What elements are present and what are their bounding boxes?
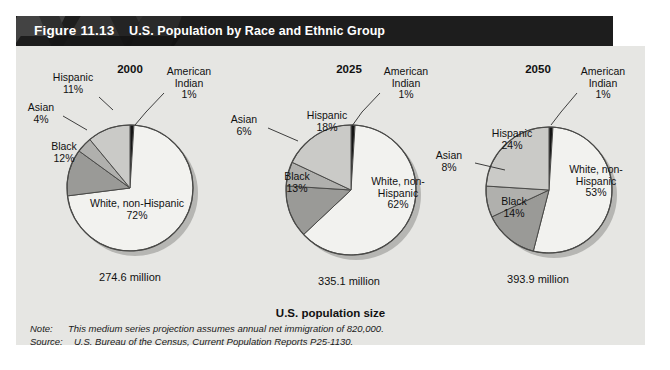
slice-percent: 13% (274, 183, 320, 195)
slice-label-black: Black12% (41, 141, 87, 164)
slice-label-hispanic: Hispanic18% (292, 110, 362, 133)
figure-number: Figure 11.13 (34, 23, 114, 38)
slice-label-text: American (563, 66, 643, 78)
slice-percent: 6% (220, 126, 268, 138)
leader-line-hispanic (99, 97, 113, 110)
figure-body: 2000AmericanIndian1%White, non-Hispanic7… (16, 46, 645, 345)
slice-label-american-indian: AmericanIndian1% (150, 66, 228, 101)
slice-percent: 11% (41, 84, 105, 96)
figure-panel: Figure 11.13 U.S. Population by Race and… (16, 16, 645, 345)
slice-label-text: American (150, 66, 228, 78)
slice-label-text: Black (274, 171, 320, 183)
source-text: U.S. Bureau of the Census, Current Popul… (74, 336, 353, 347)
note-text: This medium series projection assumes an… (68, 323, 384, 334)
slice-percent: 14% (491, 208, 537, 220)
slice-percent: 53% (553, 187, 639, 199)
leader-line-asian (63, 116, 87, 130)
slice-label-text: White, non- (553, 164, 639, 176)
slice-percent: 62% (352, 199, 444, 211)
source-key: Source: (30, 336, 63, 347)
slice-label-black: Black14% (491, 196, 537, 219)
slice-label-text: White, non-Hispanic (77, 198, 197, 210)
slice-percent: 12% (41, 153, 87, 165)
pie-chart-2000: 2000AmericanIndian1%White, non-Hispanic7… (25, 46, 235, 306)
slice-percent: 18% (292, 122, 362, 134)
slice-percent: 4% (19, 114, 63, 126)
note-key: Note: (30, 323, 53, 334)
slice-label-hispanic: Hispanic24% (477, 128, 547, 151)
slice-label-text: Asian (220, 114, 268, 126)
slice-percent: 1% (563, 89, 643, 101)
slice-percent: 8% (425, 162, 473, 174)
figure-header-bar: Figure 11.13 U.S. Population by Race and… (16, 16, 613, 46)
slice-label-hispanic: Hispanic11% (41, 72, 105, 95)
slice-percent: 1% (150, 89, 228, 101)
slice-label-text: Hispanic (292, 110, 362, 122)
slice-label-text: Hispanic (477, 128, 547, 140)
slice-percent: 24% (477, 140, 547, 152)
slice-label-text: Black (491, 196, 537, 208)
slice-percent: 72% (77, 210, 197, 222)
slice-label-asian: Asian6% (220, 114, 268, 137)
slice-label-white-non-hispanic: White, non-Hispanic62% (352, 176, 444, 211)
axis-label: U.S. population size (16, 307, 645, 319)
pie-chart-group: 2000AmericanIndian1%White, non-Hispanic7… (16, 46, 645, 306)
slice-label-text: White, non- (352, 176, 444, 188)
slice-label-asian: Asian4% (19, 102, 63, 125)
pie-total-label: 274.6 million (25, 271, 235, 283)
slice-label-text: Hispanic (41, 72, 105, 84)
slice-label-white-non-hispanic: White, non-Hispanic72% (77, 198, 197, 221)
slice-label-text: Black (41, 141, 87, 153)
slice-label-black: Black13% (274, 171, 320, 194)
slice-label-american-indian: AmericanIndian1% (563, 66, 643, 101)
figure-title: U.S. Population by Race and Ethnic Group (129, 24, 385, 38)
pie-chart-2050: 2050AmericanIndian1%White, non-Hispanic5… (433, 46, 643, 306)
pie-chart-2025: 2025AmericanIndian1%White, non-Hispanic6… (244, 46, 454, 306)
slice-label-text: Asian (19, 102, 63, 114)
slice-label-asian: Asian8% (425, 150, 473, 173)
slice-label-white-non-hispanic: White, non-Hispanic53% (553, 164, 639, 199)
slice-label-text: Asian (425, 150, 473, 162)
pie-total-label: 335.1 million (244, 275, 454, 287)
pie-total-label: 393.9 million (433, 273, 643, 285)
